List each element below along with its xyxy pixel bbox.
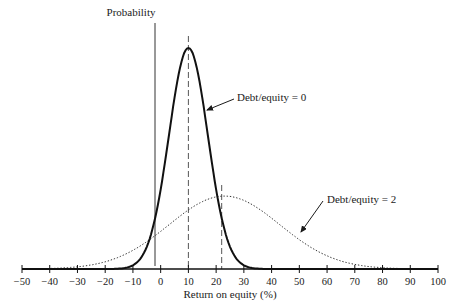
x-tick-label: 80 <box>377 276 388 287</box>
x-tick-label: 90 <box>405 276 416 287</box>
x-tick-label: 50 <box>294 276 305 287</box>
x-tick-label: 0 <box>158 276 163 287</box>
annotation-debt-equity-2: Debt/equity = 2 <box>301 193 396 232</box>
curve-debt-equity-2 <box>22 196 438 269</box>
return-on-equity-chart: Probability −50−40−30−20−100102030405060… <box>0 0 459 306</box>
x-tick-label: 40 <box>266 276 277 287</box>
x-tick-label: 20 <box>211 276 222 287</box>
x-tick-label: 30 <box>239 276 250 287</box>
arrow-icon <box>207 99 234 110</box>
x-tick-label: −20 <box>97 276 113 287</box>
x-axis-title: Return on equity (%) <box>183 288 277 301</box>
annotation-debt-equity-0: Debt/equity = 0 <box>207 91 307 110</box>
annotation-label-de2: Debt/equity = 2 <box>327 193 396 205</box>
x-tick-label: −10 <box>125 276 141 287</box>
x-tick-label: 70 <box>350 276 361 287</box>
x-tick-label: −40 <box>42 276 58 287</box>
annotation-label-de0: Debt/equity = 0 <box>237 91 307 103</box>
x-tick-label: 60 <box>322 276 333 287</box>
x-tick-label: 100 <box>430 276 446 287</box>
mean-reference-lines <box>188 36 221 269</box>
curve-debt-equity-0 <box>22 48 438 269</box>
x-tick-label: −50 <box>14 276 30 287</box>
y-axis-title: Probability <box>107 6 156 18</box>
x-tick-label: −30 <box>69 276 85 287</box>
x-tick-label: 10 <box>183 276 194 287</box>
arrow-icon <box>301 201 323 232</box>
